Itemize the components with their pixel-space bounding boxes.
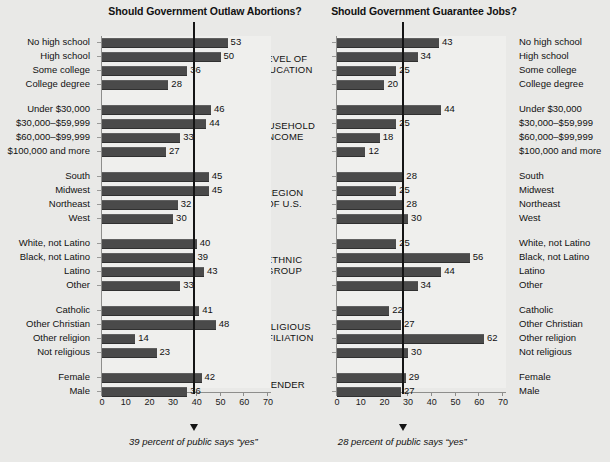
bar-value-label: 28 [406, 170, 417, 181]
x-axis-tick-label: 60 [474, 397, 484, 407]
category-label: $30,000–$59,999 [16, 117, 90, 128]
x-axis-tick-label: 20 [144, 397, 154, 407]
bar [337, 66, 396, 76]
axis-row-tick [97, 285, 101, 286]
bar [337, 133, 380, 143]
x-axis-tick-label: 40 [192, 397, 202, 407]
x-axis-tick [267, 392, 268, 396]
bar [337, 80, 384, 90]
plot-area-right: 0102030405060704334252044251812282528302… [336, 36, 506, 398]
bar-value-label: 28 [406, 198, 417, 209]
axis-row-tick [97, 56, 101, 57]
bar [102, 334, 135, 344]
axis-row-tick [97, 243, 101, 244]
bar [337, 38, 439, 48]
axis-row-tick [332, 137, 336, 138]
chart-figure: Should Government Outlaw Abortions? Shou… [0, 0, 610, 462]
bar [102, 320, 216, 330]
bar [102, 387, 187, 397]
bar [337, 281, 418, 291]
category-label: Other religion [33, 332, 90, 343]
bar-value-label: 30 [411, 346, 422, 357]
axis-row-tick [97, 338, 101, 339]
bar [337, 105, 441, 115]
axis-row-tick [332, 243, 336, 244]
category-label: $60,000–$99,999 [519, 131, 593, 142]
axis-row-tick [332, 56, 336, 57]
mean-arrow-left [190, 424, 198, 431]
x-axis-tick [478, 392, 479, 396]
plot-area-left: 0102030405060705350362846443327454532304… [101, 36, 271, 398]
axis-row-tick [332, 204, 336, 205]
chart-title-left: Should Government Outlaw Abortions? [80, 5, 330, 17]
bar-value-label: 53 [231, 36, 242, 47]
axis-row-tick [332, 377, 336, 378]
bar-value-label: 44 [209, 117, 220, 128]
category-label: Black, not Latino [20, 251, 90, 262]
bar [102, 147, 166, 157]
bar-value-label: 27 [404, 318, 415, 329]
bar [337, 373, 406, 383]
bar [102, 281, 180, 291]
bar-value-label: 43 [442, 36, 453, 47]
category-label: $60,000–$99,999 [16, 131, 90, 142]
x-axis-tick-label: 50 [215, 397, 225, 407]
bar-value-label: 32 [181, 198, 192, 209]
category-label: Female [58, 371, 90, 382]
axis-row-tick [332, 310, 336, 311]
bar-value-label: 25 [399, 237, 410, 248]
bar [102, 253, 194, 263]
bar [102, 267, 204, 277]
bar [337, 306, 389, 316]
bar-value-label: 50 [224, 50, 235, 61]
bar-value-label: 28 [171, 78, 182, 89]
axis-row-tick [332, 218, 336, 219]
bar-value-label: 48 [219, 318, 230, 329]
category-label: Not religious [519, 346, 572, 357]
axis-row-tick [332, 352, 336, 353]
axis-row-tick [332, 176, 336, 177]
x-axis-tick-label: 30 [168, 397, 178, 407]
bar-value-label: 43 [207, 265, 218, 276]
axis-row-tick [97, 176, 101, 177]
axis-row-tick [97, 70, 101, 71]
category-label: High school [40, 50, 90, 61]
x-axis-tick [455, 392, 456, 396]
category-label: Black, not Latino [519, 251, 589, 262]
bar [337, 320, 401, 330]
category-label: South [65, 170, 90, 181]
axis-row-tick [332, 324, 336, 325]
x-axis-tick-label: 30 [403, 397, 413, 407]
category-label: Other religion [519, 332, 576, 343]
footnote-left: 39 percent of public says “yes” [129, 436, 258, 447]
axis-row-tick [332, 123, 336, 124]
bar [102, 119, 206, 129]
category-label: Latino [519, 265, 545, 276]
x-axis-tick-label: 60 [239, 397, 249, 407]
category-label: Other [66, 279, 90, 290]
axis-row-tick [97, 271, 101, 272]
bar [102, 214, 173, 224]
axis-row-tick [332, 257, 336, 258]
axis-row-tick [97, 84, 101, 85]
bar-value-label: 29 [409, 371, 420, 382]
x-axis-tick-label: 0 [99, 397, 104, 407]
bar-value-label: 33 [183, 279, 194, 290]
axis-row-tick [332, 109, 336, 110]
mean-reference-line [402, 22, 404, 394]
axis-row-tick [97, 123, 101, 124]
bar [102, 80, 168, 90]
x-axis-tick-label: 20 [379, 397, 389, 407]
bar-value-label: 42 [205, 371, 216, 382]
category-label: Male [519, 385, 540, 396]
bar [337, 52, 418, 62]
category-label: Other [519, 279, 543, 290]
axis-row-tick [97, 324, 101, 325]
category-label: Catholic [56, 304, 90, 315]
bar-value-label: 12 [368, 145, 379, 156]
category-label: Some college [519, 64, 577, 75]
axis-row-tick [97, 310, 101, 311]
bar [102, 52, 221, 62]
category-label: White, not Latino [519, 237, 590, 248]
axis-row-tick [332, 84, 336, 85]
